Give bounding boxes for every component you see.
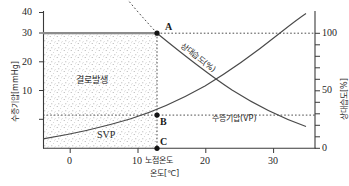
x-tick-label-30: 30 (268, 156, 278, 166)
x-tick-label-20: 20 (200, 156, 210, 166)
point-label-c: C (160, 137, 167, 147)
rh-curve-dashed-extension (128, 0, 157, 33)
x-axis-title: 온도[℃] (150, 170, 179, 178)
vp-curve-label: 수증기압(VP) (212, 115, 257, 123)
y-axis-left-ticks (39, 13, 44, 120)
y-axis-left-title: 수증기압[mmHg] (12, 61, 20, 122)
y2-tick-label-0: 0 (322, 143, 327, 153)
svp-curve-label: SVP (97, 130, 115, 140)
y-tick-label-30: 30 (22, 28, 32, 38)
y-tick-label-40: 40 (22, 7, 32, 17)
dew-point-label: 노점온도 (145, 157, 173, 165)
y-tick-label-20: 20 (22, 57, 32, 67)
data-point-b (154, 113, 159, 118)
y-tick-label-10: 10 (22, 86, 32, 96)
x-axis-ticks (70, 148, 273, 153)
y-axis-right-ticks (315, 33, 320, 148)
data-point-c (154, 146, 159, 151)
y-axis-right-title: 상대습도[%] (341, 78, 349, 120)
x-tick-label-10: 10 (132, 156, 142, 166)
y2-tick-label-100: 100 (322, 28, 337, 38)
point-label-b: B (160, 117, 167, 127)
data-point-a (154, 31, 159, 36)
x-tick-label-0: 0 (67, 156, 72, 166)
condensation-region-label: 결로발생 (76, 76, 108, 85)
y2-tick-label-50: 50 (322, 85, 332, 95)
point-label-a: A (165, 22, 172, 32)
